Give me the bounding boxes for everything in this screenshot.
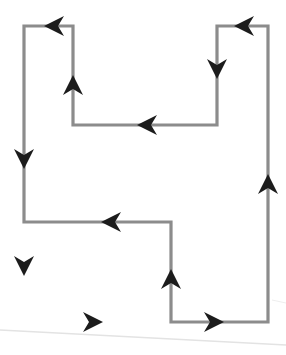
diagram-canvas: [0, 0, 286, 355]
scan-artifact-faint: [272, 300, 286, 303]
arrowheads-group: [14, 16, 278, 332]
arrow-bottom-left-segment: [83, 312, 103, 332]
polygon-diagram: [0, 0, 286, 355]
scan-artifact-diagonal: [0, 330, 286, 345]
arrow-left-edge-lower: [14, 256, 34, 276]
polygon-outline: [24, 26, 268, 322]
